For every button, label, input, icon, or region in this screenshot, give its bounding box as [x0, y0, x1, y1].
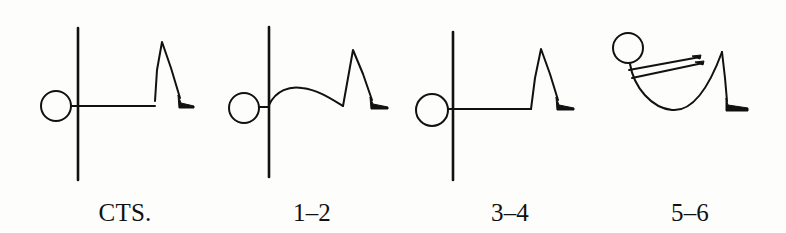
- leg-line: [531, 49, 558, 109]
- leg-line: [722, 52, 727, 101]
- leg-line: [155, 42, 180, 101]
- leg-line: [343, 50, 372, 106]
- caption-3-4: 3–4: [491, 199, 529, 227]
- caption-1-2: 1–2: [293, 199, 331, 227]
- head-circle: [229, 93, 259, 123]
- caption-cts: CTS.: [99, 199, 152, 227]
- head-circle: [41, 91, 71, 121]
- caption-5-6: 5–6: [671, 199, 709, 227]
- arm-lower-line: [632, 63, 703, 78]
- head-circle: [416, 94, 448, 126]
- panel-3-4-figure: [416, 32, 574, 180]
- panel-cts-figure: [41, 28, 194, 180]
- torso-curve: [269, 88, 343, 106]
- panel-5-6-figure: [613, 33, 748, 111]
- foot-shape: [370, 97, 388, 109]
- head-circle: [613, 33, 643, 63]
- panel-1-2-figure: [229, 27, 388, 177]
- foot-shape: [726, 98, 748, 111]
